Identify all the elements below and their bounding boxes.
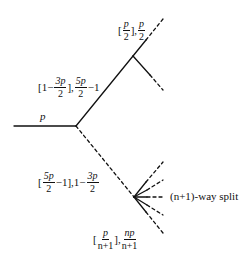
bracket: [ <box>38 177 42 188</box>
bracket: [ <box>93 234 97 245</box>
fraction: 5p 2 <box>43 171 55 194</box>
split-annotation-text: (n+1)-way split <box>170 191 238 202</box>
fan-ray-2-dashed <box>147 180 163 190</box>
fan-ray-5-solid <box>134 197 146 212</box>
bracket: [ <box>118 25 122 36</box>
root-edge-label: p <box>40 111 46 122</box>
fraction: 3p 2 <box>54 76 66 99</box>
fan-ray-1-solid <box>134 182 146 197</box>
upper-child-1-dashed <box>146 19 163 40</box>
label-part: 1− <box>42 82 54 93</box>
fraction: 5p 2 <box>75 76 87 99</box>
fraction: p 2 <box>138 19 145 42</box>
split-annotation: (n+1)-way split <box>170 191 238 202</box>
label-part: −1],1− <box>56 177 86 188</box>
upper-child-2-solid <box>133 56 150 75</box>
upper-child-1-solid <box>133 40 146 56</box>
label-part: ], <box>131 25 137 36</box>
upper-child-2-dashed <box>150 75 163 90</box>
lower-children-label: [ p n+1 ], np n+1 <box>93 228 138 251</box>
fan-ray-4-dashed <box>147 205 163 215</box>
fan-ray-2-solid <box>134 190 147 197</box>
fan-ray-5-dashed <box>146 212 163 233</box>
fraction: p 2 <box>123 19 130 42</box>
fraction: np n+1 <box>122 228 138 251</box>
label-part: ], <box>67 82 73 93</box>
label-part: −1 <box>88 82 100 93</box>
fan-ray-1-dashed <box>146 162 163 182</box>
upper-branch-label: [ 1− 3p 2 ], 5p 2 −1 <box>38 76 100 99</box>
lower-branch-label: [ 5p 2 −1],1− 3p 2 <box>38 171 100 194</box>
fraction: 3p 2 <box>87 171 99 194</box>
label-part: ], <box>114 234 120 245</box>
upper-children-label: [ p 2 ], p 2 <box>118 19 146 42</box>
root-label-text: p <box>40 111 46 122</box>
fan-ray-4-solid <box>134 197 147 205</box>
fraction: p n+1 <box>98 228 114 251</box>
